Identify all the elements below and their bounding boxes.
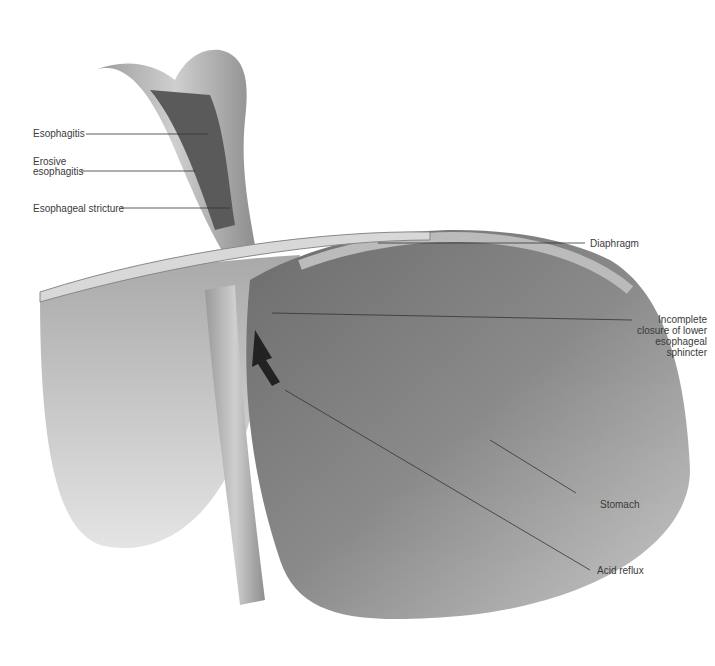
label-esophageal-stricture: Esophageal stricture [33,203,124,215]
label-esophagitis: Esophagitis [33,128,85,140]
label-les-line4: sphincter [666,347,707,359]
label-stomach: Stomach [600,499,639,511]
label-diaphragm: Diaphragm [590,238,639,250]
label-acid-reflux: Acid reflux [597,565,644,577]
label-erosive-esophagitis-line2: esophagitis [33,166,84,178]
